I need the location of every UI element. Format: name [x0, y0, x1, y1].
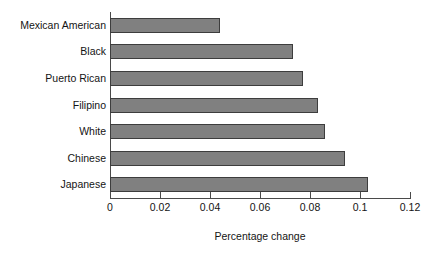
x-tick-mark: [260, 192, 261, 198]
x-axis-title: Percentage change: [110, 230, 410, 242]
x-tick-label: 0.1: [353, 201, 368, 214]
x-tick-label: 0.08: [300, 201, 320, 214]
category-label: White: [2, 124, 106, 139]
x-tick-mark: [160, 192, 161, 198]
bar: [110, 98, 318, 113]
x-tick-mark: [210, 192, 211, 198]
x-tick-mark: [310, 192, 311, 198]
category-label: Puerto Rican: [2, 71, 106, 86]
x-tick-label: 0.12: [400, 201, 420, 214]
bar: [110, 177, 368, 192]
category-axis-labels: Mexican AmericanBlackPuerto RicanFilipin…: [0, 12, 106, 198]
bar: [110, 151, 345, 166]
bar: [110, 71, 303, 86]
x-axis-line: [110, 198, 411, 199]
x-tick-label: 0.02: [150, 201, 170, 214]
bar: [110, 44, 293, 59]
category-label: Japanese: [2, 177, 106, 192]
x-tick-label: 0.04: [200, 201, 220, 214]
category-label: Chinese: [2, 151, 106, 166]
category-label: Filipino: [2, 98, 106, 113]
x-tick-mark: [110, 192, 111, 198]
x-tick-mark: [360, 192, 361, 198]
category-label: Mexican American: [2, 18, 106, 33]
x-tick-label: 0.06: [250, 201, 270, 214]
bar: [110, 124, 325, 139]
category-label: Black: [2, 44, 106, 59]
plot-area: [110, 12, 410, 198]
x-tick-mark: [410, 192, 411, 198]
bar-chart: Mexican AmericanBlackPuerto RicanFilipin…: [0, 0, 437, 254]
x-tick-label: 0: [107, 201, 113, 214]
bar: [110, 18, 220, 33]
